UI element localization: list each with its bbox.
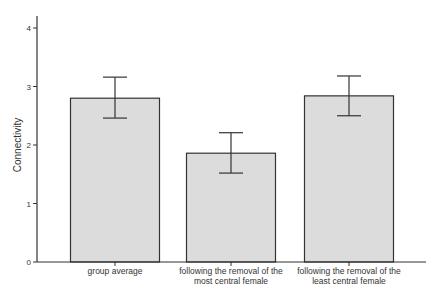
y-tick-label: 2: [27, 141, 32, 150]
y-tick-label: 3: [27, 83, 32, 92]
x-tick-label-line: following the removal of the: [179, 266, 283, 276]
y-axis: 01234: [27, 16, 37, 267]
bar-1: [71, 98, 160, 262]
x-tick-label-line: following the removal of the: [297, 266, 401, 276]
y-tick-label: 4: [27, 24, 32, 33]
y-tick-label: 1: [27, 200, 32, 209]
y-tick-label: 0: [27, 258, 32, 267]
x-tick-label: following the removal of themost central…: [179, 266, 283, 286]
y-axis-label: Connectivity: [12, 118, 23, 172]
x-axis: group averagefollowing the removal of th…: [37, 262, 426, 286]
x-tick-label-line: most central female: [194, 276, 268, 286]
bar-chart: 01234 group averagefollowing the removal…: [0, 0, 441, 299]
bars: [71, 76, 394, 262]
x-tick-label: group average: [88, 266, 143, 276]
x-tick-label-line: least central female: [312, 276, 386, 286]
x-tick-label: following the removal of theleast centra…: [297, 266, 401, 286]
bar-3: [305, 96, 394, 262]
x-tick-label-line: group average: [88, 266, 143, 276]
